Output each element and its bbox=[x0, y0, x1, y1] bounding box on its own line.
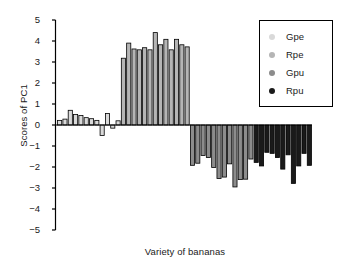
bar bbox=[79, 116, 83, 125]
bar bbox=[270, 125, 274, 153]
x-axis-label: Variety of bananas bbox=[55, 246, 315, 257]
bar bbox=[233, 125, 237, 187]
legend-marker-icon bbox=[269, 52, 275, 58]
legend-item-rpu[interactable]: Rpu bbox=[260, 82, 332, 100]
legend-label: Rpe bbox=[286, 50, 303, 60]
bar bbox=[164, 39, 168, 125]
bar bbox=[180, 45, 184, 125]
bar bbox=[281, 125, 285, 169]
chart-legend: GpeRpeGpuRpu bbox=[259, 20, 333, 107]
bar bbox=[74, 115, 78, 126]
bar bbox=[238, 125, 242, 180]
bar bbox=[275, 125, 279, 158]
y-axis-line bbox=[52, 20, 56, 230]
legend-label: Rpu bbox=[286, 86, 303, 96]
bar bbox=[190, 125, 194, 165]
bar bbox=[159, 45, 163, 125]
bar bbox=[89, 119, 93, 125]
legend-item-rpe[interactable]: Rpe bbox=[260, 46, 332, 64]
bar bbox=[132, 49, 136, 125]
bar bbox=[286, 125, 290, 155]
legend-marker-icon bbox=[269, 88, 275, 94]
bar bbox=[174, 39, 178, 125]
bar bbox=[244, 125, 248, 179]
bar bbox=[84, 118, 88, 125]
bar bbox=[58, 120, 62, 125]
bar bbox=[148, 50, 152, 125]
bar bbox=[153, 33, 157, 125]
bar bbox=[100, 125, 104, 136]
legend-marker-icon bbox=[269, 34, 275, 40]
bar bbox=[63, 119, 67, 125]
bar bbox=[217, 125, 221, 179]
bar bbox=[222, 125, 226, 177]
chart-figure: Scores of PC1 543210−1−2−3−4−5 Variety o… bbox=[0, 0, 343, 277]
bar bbox=[291, 125, 295, 183]
bar bbox=[206, 125, 210, 158]
bar bbox=[127, 43, 131, 125]
bar bbox=[68, 110, 72, 125]
bar bbox=[185, 47, 189, 125]
bar bbox=[265, 125, 269, 152]
bar bbox=[169, 50, 173, 125]
legend-item-gpe[interactable]: Gpe bbox=[260, 28, 332, 46]
bar bbox=[105, 113, 109, 125]
bar bbox=[228, 125, 232, 164]
bar bbox=[302, 125, 306, 153]
legend-item-gpu[interactable]: Gpu bbox=[260, 64, 332, 82]
bar bbox=[143, 48, 147, 125]
legend-marker-icon bbox=[269, 70, 275, 76]
bar bbox=[116, 121, 120, 125]
bar bbox=[212, 125, 216, 167]
bar bbox=[307, 125, 311, 165]
legend-label: Gpe bbox=[286, 32, 304, 42]
bar bbox=[121, 58, 125, 125]
legend-label: Gpu bbox=[286, 68, 304, 78]
bar bbox=[201, 125, 205, 155]
bar bbox=[259, 125, 263, 166]
bar bbox=[196, 125, 200, 163]
bar bbox=[249, 125, 253, 159]
bar bbox=[297, 125, 301, 166]
bar bbox=[254, 125, 258, 162]
bar bbox=[137, 50, 141, 125]
bar bbox=[95, 120, 99, 125]
